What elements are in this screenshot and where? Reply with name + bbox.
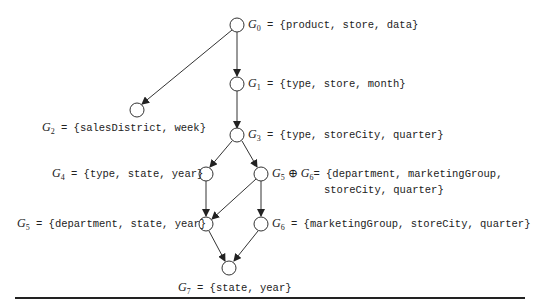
label-g7: G7 = {state, year} <box>178 281 292 298</box>
label-g6: G6 = {marketingGroup, storeCity, quarter… <box>272 217 530 234</box>
diagram-graph <box>0 0 537 304</box>
label-g5-oplus-g6: G5 ⊕ G6= {department, marketingGroup,sto… <box>272 167 502 197</box>
label-g2: G2 = {salesDistrict, week} <box>42 121 206 138</box>
node-g7 <box>222 261 236 275</box>
node-g6 <box>254 217 268 231</box>
label-g3: G3 = {type, storeCity, quarter} <box>248 128 443 145</box>
label-g4: G4 = {type, state, year} <box>52 167 203 184</box>
bottom-rule <box>15 297 525 299</box>
node-g3 <box>230 128 244 142</box>
label-g0: G0 = {product, store, data} <box>248 18 418 35</box>
node-g1 <box>230 77 244 91</box>
label-g5: G5 = {department, state, year} <box>17 217 206 234</box>
lattice-diagram: G0 = {product, store, data} G1 = {type, … <box>0 0 537 304</box>
node-g0 <box>230 18 244 32</box>
node-g2 <box>130 103 144 117</box>
node-g56 <box>254 167 268 181</box>
label-g1: G1 = {type, store, month} <box>248 77 406 94</box>
